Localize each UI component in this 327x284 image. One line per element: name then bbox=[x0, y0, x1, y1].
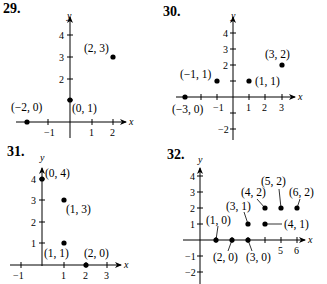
x-tick: −1 bbox=[13, 270, 24, 281]
x-axis-label: x bbox=[128, 116, 134, 127]
data-point bbox=[262, 205, 267, 210]
data-point bbox=[229, 237, 234, 242]
point-label: (0, 1) bbox=[72, 102, 97, 115]
point-label: (1, 1) bbox=[44, 247, 69, 260]
y-tick: 3 bbox=[223, 44, 228, 55]
data-point bbox=[294, 205, 299, 210]
data-point bbox=[262, 221, 267, 226]
y-tick: 2 bbox=[31, 217, 36, 228]
y-tick: 3 bbox=[31, 195, 36, 206]
point-label: (−2, 0) bbox=[11, 101, 43, 114]
data-point bbox=[83, 262, 88, 267]
y-tick: −2 bbox=[218, 124, 229, 135]
point-label: (3, 1) bbox=[226, 200, 251, 213]
x-axis-label: x bbox=[307, 234, 313, 245]
y-tick: 1 bbox=[190, 219, 195, 230]
x-tick: 1 bbox=[246, 102, 251, 113]
problem-number: 29. bbox=[3, 1, 21, 16]
data-point bbox=[279, 62, 284, 67]
point-label: (4, 1) bbox=[284, 218, 309, 231]
point-label: (0, 4) bbox=[45, 167, 70, 180]
data-point bbox=[246, 78, 251, 83]
point-label: (6, 2) bbox=[289, 186, 314, 199]
y-tick: 2 bbox=[190, 203, 195, 214]
point-label: (3, 0) bbox=[246, 251, 271, 264]
data-point bbox=[182, 94, 187, 99]
point-label: (5, 2) bbox=[261, 175, 286, 188]
data-point bbox=[39, 176, 44, 181]
problem-number: 32. bbox=[167, 147, 185, 162]
x-tick: 1 bbox=[61, 270, 66, 281]
point-label: (2, 0) bbox=[213, 251, 238, 264]
graph-31: 31. x y −1 1 2 3 4 3 2 1 (0, 4) (1, 3) (… bbox=[7, 144, 129, 281]
point-label: (2, 0) bbox=[84, 247, 109, 260]
x-tick: 2 bbox=[83, 270, 88, 281]
point-label: (1, 1) bbox=[255, 75, 280, 88]
y-tick: 4 bbox=[31, 174, 36, 185]
x-tick: 6 bbox=[294, 245, 299, 256]
y-axis-label: y bbox=[197, 154, 203, 165]
data-point bbox=[213, 237, 218, 242]
x-tick: −1 bbox=[213, 102, 224, 113]
y-tick: 3 bbox=[59, 52, 64, 63]
x-axis-label: x bbox=[123, 259, 129, 270]
problem-number: 31. bbox=[7, 144, 25, 159]
data-point bbox=[110, 54, 115, 59]
data-point bbox=[214, 78, 219, 83]
y-tick: −1 bbox=[185, 251, 196, 262]
point-label: (3, 2) bbox=[265, 48, 290, 61]
x-tick: 5 bbox=[278, 245, 283, 256]
data-point bbox=[245, 221, 250, 226]
y-axis-label: y bbox=[39, 152, 45, 163]
data-point bbox=[61, 240, 66, 245]
y-tick: 4 bbox=[190, 171, 195, 182]
data-point bbox=[278, 205, 283, 210]
figure: 29. x y −1 1 2 4 3 2 (−2, 0) (0, 1) (2, … bbox=[0, 0, 327, 284]
y-tick: 3 bbox=[190, 187, 195, 198]
x-tick: 1 bbox=[89, 127, 94, 138]
graph-29: 29. x y −1 1 2 4 3 2 (−2, 0) (0, 1) (2, … bbox=[3, 1, 134, 138]
y-axis-label: y bbox=[66, 10, 72, 21]
data-point bbox=[24, 119, 29, 124]
x-tick: 3 bbox=[279, 102, 284, 113]
point-label: (2, 3) bbox=[84, 42, 109, 55]
y-tick: 2 bbox=[223, 60, 228, 71]
x-tick: 3 bbox=[104, 270, 109, 281]
point-label: (1, 3) bbox=[66, 203, 91, 216]
y-tick: 1 bbox=[31, 238, 36, 249]
y-tick: 4 bbox=[59, 30, 64, 41]
graph-30: 30. x y −1 1 2 3 4 3 2 −2 (−3, 0) bbox=[163, 4, 303, 140]
point-label: (4, 2) bbox=[241, 186, 266, 199]
point-label: (1, 0) bbox=[206, 214, 231, 227]
point-label: (−1, 1) bbox=[180, 68, 212, 81]
point-label: (−3, 0) bbox=[172, 103, 204, 116]
y-tick: 2 bbox=[59, 74, 64, 85]
y-axis-label: y bbox=[230, 10, 236, 21]
x-tick: 2 bbox=[262, 102, 267, 113]
graph-32: 32. x y 5 6 4 3 2 1 −1 −2 bbox=[167, 147, 314, 284]
data-point bbox=[245, 237, 250, 242]
problem-number: 30. bbox=[163, 4, 181, 19]
y-tick: −2 bbox=[185, 267, 196, 278]
x-tick: 2 bbox=[110, 127, 115, 138]
x-axis-label: x bbox=[297, 91, 303, 102]
x-tick: −1 bbox=[44, 127, 55, 138]
y-tick: 4 bbox=[223, 28, 228, 39]
data-point bbox=[61, 197, 66, 202]
